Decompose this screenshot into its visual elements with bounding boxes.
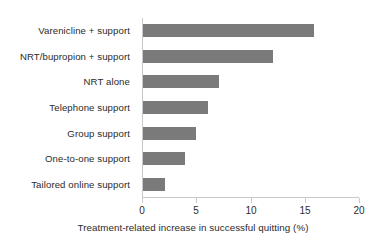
x-tick-label: 10 [231, 205, 271, 216]
bar [143, 24, 314, 37]
x-tick-mark [305, 198, 306, 203]
x-tick-label: 15 [285, 205, 325, 216]
x-tick-label: 0 [122, 205, 162, 216]
x-tick-label: 5 [176, 205, 216, 216]
category-label: NRT/bupropion + support [20, 50, 130, 63]
bar [143, 127, 196, 140]
x-tick-label: 20 [339, 205, 379, 216]
category-axis-labels: Varenicline + supportNRT/bupropion + sup… [0, 18, 136, 197]
category-label: Telephone support [49, 101, 130, 114]
plot-area: 05101520 [142, 18, 364, 197]
x-tick-mark [251, 198, 252, 203]
bar-chart: Varenicline + supportNRT/bupropion + sup… [0, 0, 386, 249]
x-tick-mark [196, 198, 197, 203]
bar [143, 50, 273, 63]
bar [143, 75, 219, 88]
category-label: Group support [67, 127, 130, 140]
category-label: One-to-one support [45, 152, 130, 165]
category-label: NRT alone [84, 75, 130, 88]
bar [143, 101, 208, 114]
bar [143, 152, 185, 165]
x-axis-title: Treatment-related increase in successful… [0, 222, 386, 233]
category-label: Tailored online support [31, 178, 130, 191]
bar [143, 178, 165, 191]
x-tick-mark [359, 198, 360, 203]
x-tick-mark [142, 198, 143, 203]
category-label: Varenicline + support [38, 24, 130, 37]
